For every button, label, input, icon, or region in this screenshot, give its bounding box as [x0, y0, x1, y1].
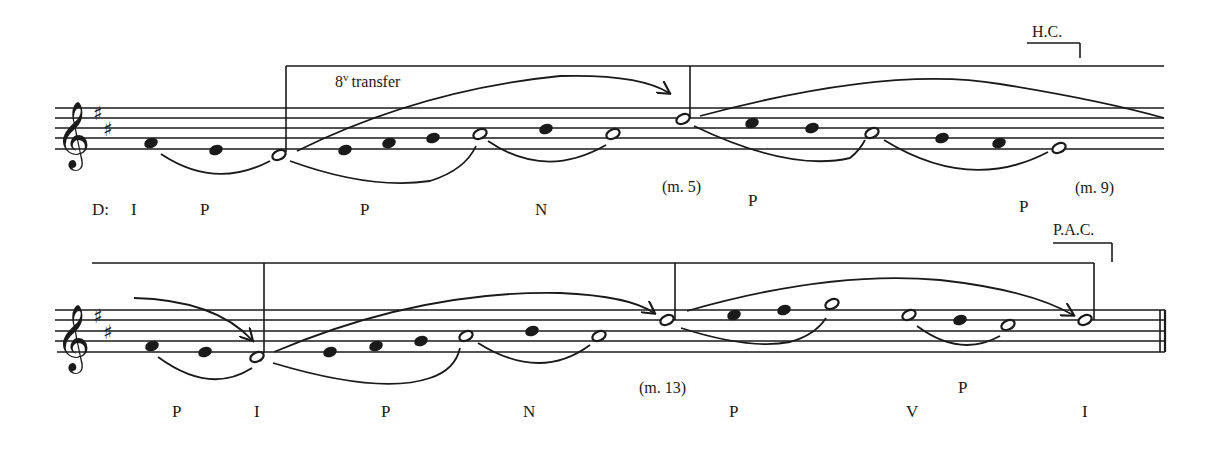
staff-1-notes: [143, 112, 1068, 162]
label: I: [254, 402, 260, 421]
staff-1-slurs: [161, 76, 1164, 183]
octave-transfer-label: 8vtransfer: [335, 71, 401, 90]
svg-text:♯: ♯: [103, 320, 113, 344]
treble-clef-icon: 𝄞: [56, 303, 90, 374]
svg-text:♯: ♯: [93, 304, 103, 328]
voice-leading-graph: 𝄞 ♯ ♯ H.C. 8vtransfer: [0, 0, 1219, 450]
half-cadence-label: H.C.: [1032, 23, 1062, 40]
label: N: [535, 200, 547, 219]
key-label: D:: [92, 200, 109, 219]
key-signature: ♯ ♯: [93, 101, 113, 141]
label: P: [200, 200, 209, 219]
label: I: [131, 200, 137, 219]
label: P: [958, 378, 967, 397]
label: P: [360, 200, 369, 219]
system-1: 𝄞 ♯ ♯ H.C. 8vtransfer: [55, 23, 1164, 219]
label: P: [381, 402, 390, 421]
perfect-authentic-cadence-label: P.A.C.: [1053, 221, 1094, 238]
label: I: [1082, 402, 1088, 421]
label: P: [729, 402, 738, 421]
measure-13-label: (m. 13): [639, 379, 686, 397]
label: P: [748, 191, 757, 210]
label: P: [1019, 197, 1028, 216]
measure-9-label: (m. 9): [1075, 179, 1114, 197]
label: N: [523, 402, 535, 421]
label: V: [906, 402, 919, 421]
svg-text:♯: ♯: [93, 101, 103, 125]
measure-5-label: (m. 5): [662, 178, 701, 196]
system-2: 𝄞 ♯ ♯ P.A.C.: [55, 221, 1165, 421]
treble-clef-icon: 𝄞: [56, 100, 90, 171]
label: P: [172, 402, 181, 421]
svg-text:♯: ♯: [103, 117, 113, 141]
